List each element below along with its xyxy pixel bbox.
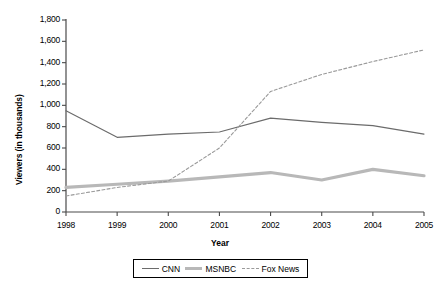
legend-label-msnbc: MSNBC bbox=[205, 264, 236, 274]
x-axis-tick-label: 2000 bbox=[148, 220, 188, 230]
legend-item-msnbc: MSNBC bbox=[185, 264, 236, 274]
series-line-msnbc bbox=[66, 169, 424, 187]
x-axis-tick-label: 2002 bbox=[251, 220, 291, 230]
series-line-cnn bbox=[66, 111, 424, 138]
legend-line-cnn-icon bbox=[142, 268, 159, 269]
x-axis-tick-label: 1999 bbox=[97, 220, 137, 230]
legend-label-foxnews: Fox News bbox=[262, 264, 300, 274]
legend-line-msnbc-icon bbox=[185, 267, 202, 270]
legend-label-cnn: CNN bbox=[162, 264, 180, 274]
x-axis-tick-label: 2004 bbox=[353, 220, 393, 230]
x-axis-title: Year bbox=[0, 238, 440, 248]
legend-item-foxnews: Fox News bbox=[242, 264, 300, 274]
legend-item-cnn: CNN bbox=[142, 264, 180, 274]
x-axis-tick-label: 2003 bbox=[302, 220, 342, 230]
line-chart: Viewers (in thousands) 02004006008001,00… bbox=[0, 0, 440, 290]
legend-line-foxnews-icon bbox=[242, 268, 259, 269]
chart-legend: CNN MSNBC Fox News bbox=[133, 259, 308, 278]
x-axis-tick-label: 2005 bbox=[404, 220, 440, 230]
x-axis-tick-label: 2001 bbox=[199, 220, 239, 230]
x-axis-tick-label: 1998 bbox=[46, 220, 86, 230]
